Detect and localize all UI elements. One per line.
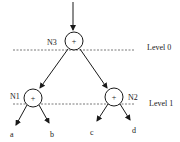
node-n2: + [105,88,123,106]
leaf-b: b [50,130,54,139]
edge-n2-c [97,104,108,121]
leaf-a: a [10,130,14,139]
leaf-c: c [90,128,94,137]
svg-text:+: + [72,37,77,46]
edge-n3-n1 [40,49,68,88]
edge-n1-b [39,105,49,123]
leaf-d: d [132,126,136,135]
svg-text:+: + [31,94,36,103]
node-n3: + [65,32,83,50]
edge-n1-a [16,105,27,125]
tree-diagram: + + + N3 N1 N2 Level 0 Level 1 a b c d [0,0,180,142]
edge-n2-d [120,104,130,120]
label-level-1: Level 1 [149,99,173,108]
label-n2: N2 [128,93,138,102]
svg-text:+: + [112,93,117,102]
edge-n3-n2 [80,49,107,88]
label-n1: N1 [10,92,20,101]
label-level-0: Level 0 [147,43,171,52]
node-n1: + [24,89,42,107]
label-n3: N3 [47,38,57,47]
